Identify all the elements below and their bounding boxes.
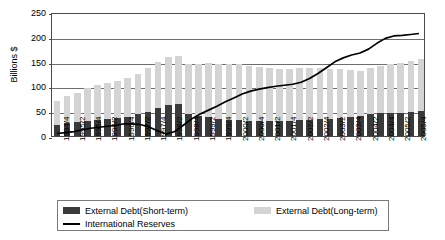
legend-item-long-term: External Debt(Long-term) [254,204,378,217]
y-tick-label: 50 [20,108,46,117]
x-tick-label: 2005/4 [420,117,428,141]
x-tick-label: 2000/2 [242,117,250,141]
x-tick-label: 1995/2 [79,117,87,141]
x-tick-label: 1999/4 [225,117,233,141]
legend-label-reserves: International Reserves [85,219,175,229]
y-tick-label: 150 [20,59,46,68]
y-tick-label: 0 [20,133,46,142]
x-tick-label: 2002/4 [323,117,331,141]
x-tick-label: 1996/4 [128,117,136,141]
y-tick-label: 200 [20,34,46,43]
x-tick-label: 2001/2 [274,117,282,141]
legend-item-short-term: External Debt(Short-term) [63,206,188,216]
x-tick-label: 1998/2 [176,117,184,141]
chart-legend: External Debt(Short-term) External Debt(… [57,200,389,231]
x-tick-label: 1995/4 [95,117,103,141]
legend-label-long-term: External Debt(Long-term) [276,206,378,216]
x-tick-label: 2003/4 [355,117,363,141]
x-tick-label: 1996/2 [111,117,119,141]
x-tick-label: 2005/2 [404,117,412,141]
legend-row-1: External Debt(Short-term) External Debt(… [63,204,388,217]
x-tick-label: 2000/4 [258,117,266,141]
line-black-icon [63,223,80,225]
x-tick-label: 1999/2 [209,117,217,141]
y-tick-label: 100 [20,83,46,92]
y-axis-title: Billions $ [10,20,19,110]
reserves-line-layer [52,14,424,136]
swatch-light-icon [254,207,271,214]
x-tick-label: 1994/4 [63,117,71,141]
x-tick-label: 2004/4 [388,117,396,141]
x-tick-label: 2001/4 [290,117,298,141]
x-tick-label: 2003/2 [339,117,347,141]
chart-container: Billions $ 050100150200250 1994/41995/21… [0,0,445,240]
x-tick-label: 1998/4 [193,117,201,141]
y-tick-label: 250 [20,9,46,18]
swatch-dark-icon [63,207,80,214]
plot-area [51,13,425,137]
legend-row-2: International Reserves [63,217,388,230]
x-tick-label: 1997/2 [144,117,152,141]
x-axis-tick-labels: 1994/41995/21995/41996/21996/41997/21997… [51,139,425,189]
x-tick-label: 1997/4 [160,117,168,141]
legend-label-short-term: External Debt(Short-term) [85,206,188,216]
legend-item-reserves: International Reserves [63,219,175,229]
x-tick-label: 2002/2 [307,117,315,141]
x-tick-label: 2004/2 [372,117,380,141]
